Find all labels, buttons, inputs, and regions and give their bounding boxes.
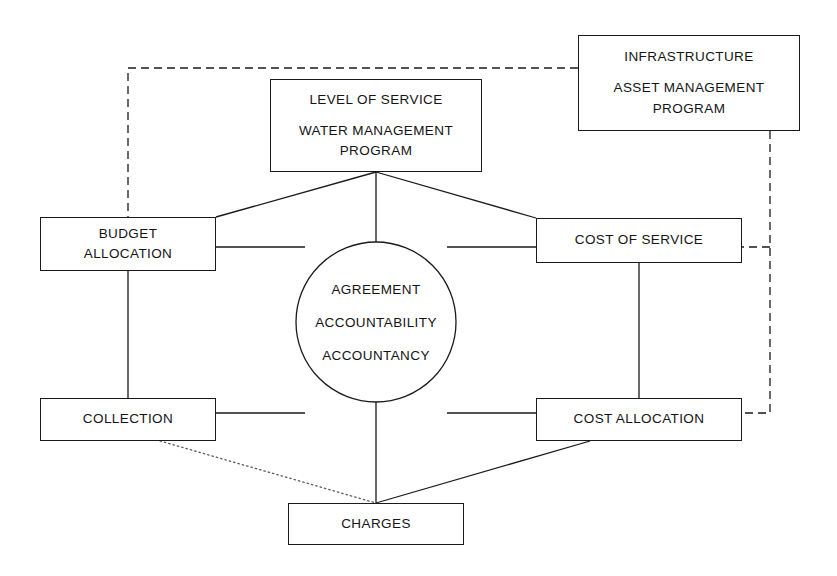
node-budget-allocation-line1: BUDGET	[99, 225, 158, 243]
node-infrastructure-line2: ASSET MANAGEMENT	[614, 79, 765, 97]
connector-los-to-budget-allocation	[216, 172, 376, 217]
node-infrastructure-asset-management[interactable]: INFRASTRUCTURE ASSET MANAGEMENT PROGRAM	[578, 35, 800, 131]
connector-collection-to-charges	[160, 441, 376, 503]
node-budget-allocation[interactable]: BUDGET ALLOCATION	[40, 217, 216, 271]
node-cost-of-service[interactable]: COST OF SERVICE	[536, 218, 742, 263]
connector-cost-allocation-to-charges	[376, 441, 590, 503]
node-level-of-service-line2: WATER MANAGEMENT	[299, 122, 453, 140]
center-circle-line3: ACCOUNTANCY	[322, 348, 430, 363]
center-circle-line2: ACCOUNTABILITY	[315, 315, 437, 330]
connector-infrastructure-to-cost-allocation	[742, 131, 770, 413]
node-level-of-service-line1: LEVEL OF SERVICE	[309, 91, 442, 109]
node-cost-of-service-line1: COST OF SERVICE	[575, 231, 704, 249]
node-collection-line1: COLLECTION	[83, 410, 173, 428]
node-cost-allocation[interactable]: COST ALLOCATION	[536, 398, 742, 441]
node-infrastructure-line3: PROGRAM	[653, 100, 726, 118]
center-circle-label: AGREEMENT ACCOUNTABILITY ACCOUNTANCY	[296, 242, 456, 402]
node-charges-line1: CHARGES	[341, 515, 411, 533]
diagram-canvas: LEVEL OF SERVICE WATER MANAGEMENT PROGRA…	[0, 0, 837, 576]
node-level-of-service-line3: PROGRAM	[340, 142, 413, 160]
node-infrastructure-line1: INFRASTRUCTURE	[624, 48, 753, 66]
node-level-of-service[interactable]: LEVEL OF SERVICE WATER MANAGEMENT PROGRA…	[270, 79, 482, 172]
node-cost-allocation-line1: COST ALLOCATION	[574, 410, 705, 428]
node-budget-allocation-line2: ALLOCATION	[84, 245, 173, 263]
center-circle-line1: AGREEMENT	[331, 282, 420, 297]
connector-los-to-cost-of-service	[376, 172, 536, 218]
node-charges[interactable]: CHARGES	[288, 503, 464, 545]
node-collection[interactable]: COLLECTION	[40, 398, 216, 441]
